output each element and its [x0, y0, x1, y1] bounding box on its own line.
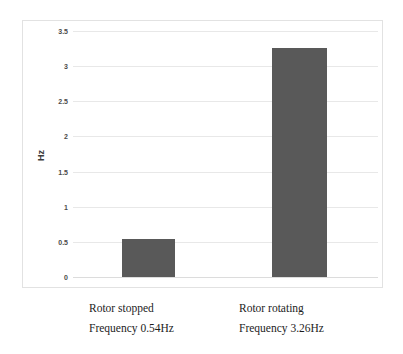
caption-title: Rotor stopped — [89, 298, 174, 318]
y-tick-label-1.5: 1.5 — [58, 169, 68, 176]
plot-area: 3.5 3 2.5 2 1.5 1 0.5 0 — [73, 31, 378, 277]
gridline-1: 1 — [73, 207, 378, 208]
y-tick-label-0: 0 — [64, 274, 68, 281]
y-tick-label-1: 1 — [64, 204, 68, 211]
gridline-3: 3 — [73, 66, 378, 67]
y-tick-label-2: 2 — [64, 133, 68, 140]
y-tick-label-0.5: 0.5 — [58, 239, 68, 246]
chart-frame: Hz 3.5 3 2.5 2 1.5 1 0.5 0 — [22, 20, 383, 288]
y-axis-title: Hz — [36, 150, 46, 161]
gridline-2: 2 — [73, 136, 378, 137]
category-caption-rotor-rotating: Rotor rotating Frequency 3.26Hz — [239, 298, 324, 338]
caption-title: Rotor rotating — [239, 298, 324, 318]
gridline-3.5: 3.5 — [73, 31, 378, 32]
gridline-0.5: 0.5 — [73, 242, 378, 243]
gridline-2.5: 2.5 — [73, 101, 378, 102]
category-caption-rotor-stopped: Rotor stopped Frequency 0.54Hz — [89, 298, 174, 338]
caption-detail: Frequency 0.54Hz — [89, 318, 174, 338]
bar-rotor-stopped[interactable] — [122, 239, 175, 277]
bar-rotor-rotating[interactable] — [272, 48, 327, 277]
gridline-0: 0 — [73, 277, 378, 278]
gridline-1.5: 1.5 — [73, 172, 378, 173]
caption-detail: Frequency 3.26Hz — [239, 318, 324, 338]
y-tick-label-3.5: 3.5 — [58, 28, 68, 35]
y-tick-label-2.5: 2.5 — [58, 98, 68, 105]
y-tick-label-3: 3 — [64, 63, 68, 70]
